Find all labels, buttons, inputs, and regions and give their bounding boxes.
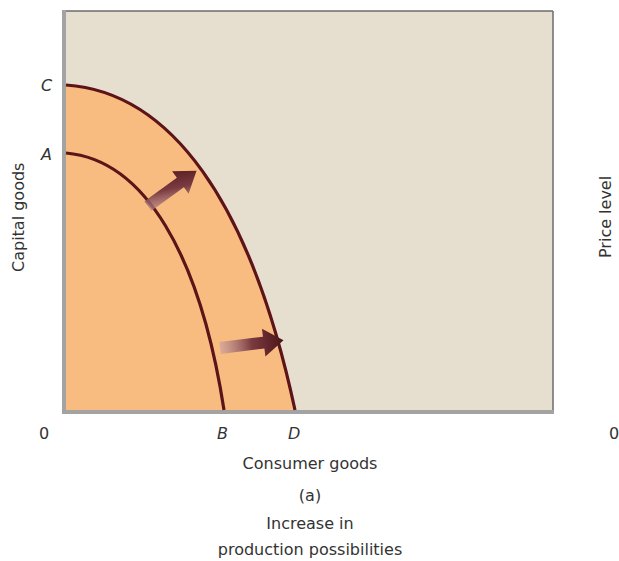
right-panel-y-axis-label: Price level [596, 176, 615, 258]
panel-label: (a) [200, 486, 420, 505]
origin-label: 0 [39, 424, 49, 443]
point-label-a: A [41, 145, 52, 164]
caption-line-1: Increase in [180, 514, 440, 533]
y-axis-label: Capital goods [9, 163, 28, 272]
point-label-d: D [288, 424, 300, 443]
x-axis-label: Consumer goods [200, 454, 420, 473]
ppf-chart [0, 0, 619, 561]
caption-line-2: production possibilities [180, 540, 440, 559]
point-label-b: B [217, 424, 228, 443]
right-panel-origin-label: 0 [609, 424, 619, 443]
point-label-c: C [41, 76, 52, 95]
